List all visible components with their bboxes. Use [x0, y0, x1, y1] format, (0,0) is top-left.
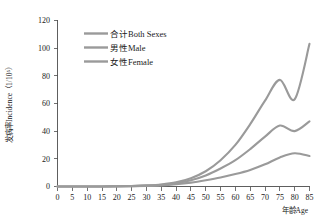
y-axis-ticks [54, 20, 58, 186]
x-axis-tick-labels: 0 5 10 15 20 25 30 35 40 45 50 55 60 65 … [56, 193, 314, 202]
x-tick-label: 75 [276, 193, 284, 202]
y-tick-label: 20 [42, 155, 50, 164]
x-axis-title: 年龄Age [282, 205, 309, 215]
x-tick-label: 55 [217, 193, 225, 202]
x-tick-label: 45 [187, 193, 195, 202]
legend: 合计Both Sexes 男性Male 女性Female [84, 29, 167, 67]
legend-label-both-sexes: 合计Both Sexes [110, 29, 167, 39]
series-line-male [58, 121, 310, 186]
y-tick-label: 0 [46, 182, 50, 191]
x-tick-label: 0 [56, 193, 60, 202]
x-tick-label: 5 [70, 193, 74, 202]
chart-canvas: 0 20 40 60 80 100 120 [0, 0, 321, 224]
y-axis-tick-labels: 0 20 40 60 80 100 120 [38, 16, 50, 191]
legend-label-female: 女性Female [110, 57, 153, 67]
series-group [58, 44, 310, 187]
x-tick-label: 85 [306, 193, 314, 202]
y-tick-label: 120 [38, 16, 50, 25]
x-tick-label: 25 [128, 193, 136, 202]
y-tick-label: 100 [38, 44, 50, 53]
x-tick-label: 80 [291, 193, 299, 202]
legend-label-male: 男性Male [110, 43, 146, 53]
x-tick-label: 70 [261, 193, 269, 202]
x-tick-label: 20 [113, 193, 121, 202]
x-tick-label: 15 [98, 193, 106, 202]
x-tick-label: 50 [202, 193, 210, 202]
x-tick-label: 60 [231, 193, 239, 202]
y-tick-label: 40 [42, 127, 50, 136]
y-axis-title: 发病率Incidence（1/10⁵） [4, 63, 14, 143]
x-tick-label: 30 [143, 193, 151, 202]
x-tick-label: 35 [157, 193, 165, 202]
x-tick-label: 65 [246, 193, 254, 202]
x-tick-label: 10 [83, 193, 91, 202]
x-tick-label: 40 [172, 193, 180, 202]
incidence-by-age-chart: 0 20 40 60 80 100 120 [0, 0, 321, 224]
series-line-both-sexes [58, 44, 310, 187]
y-tick-label: 80 [42, 72, 50, 81]
y-tick-label: 60 [42, 99, 50, 108]
